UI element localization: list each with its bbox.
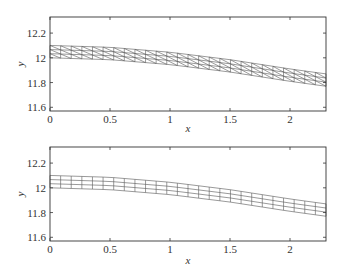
mesh-diagonal-line: [61, 54, 72, 58]
x-tick-label: 2: [287, 113, 293, 125]
mesh-diagonal-line: [92, 55, 103, 59]
x-tick-label: 1: [167, 113, 173, 125]
x-tick-label: 0.5: [103, 113, 117, 125]
x-axis-label: x: [185, 254, 191, 266]
x-tick-label: 1.5: [223, 243, 237, 255]
mesh-diagonal-line: [61, 50, 72, 54]
y-tick-label: 11.8: [27, 77, 46, 89]
x-tick-label: 1: [167, 243, 173, 255]
x-tick-label: 1.5: [223, 113, 237, 125]
x-tick-label: 0: [47, 113, 53, 125]
y-tick-label: 12.2: [27, 27, 46, 39]
y-tick-label: 11.6: [27, 101, 46, 113]
y-tick-label: 12.2: [27, 157, 46, 169]
mesh-diagonal-line: [82, 55, 93, 59]
top-plot-triangular-mesh: 00.511.5211.611.81212.2xy: [14, 17, 326, 134]
bottom-plot-quad-mesh: 00.511.5211.611.81212.2xy: [14, 147, 326, 266]
mesh-diagonal-line: [61, 46, 72, 50]
mesh-diagonal-line: [92, 51, 103, 55]
figure: 00.511.5211.611.81212.2xy 00.511.5211.61…: [0, 0, 345, 279]
mesh-diagonal-line: [50, 45, 61, 49]
x-axis-label: x: [185, 122, 191, 134]
mesh: [50, 175, 326, 216]
y-tick-label: 12: [35, 182, 46, 194]
y-tick-label: 11.6: [27, 231, 46, 243]
x-tick-label: 0.5: [103, 243, 117, 255]
mesh: [50, 45, 326, 86]
mesh-diagonal-line: [71, 54, 82, 58]
mesh-diagonal-line: [71, 46, 82, 50]
x-tick-label: 2: [287, 243, 293, 255]
mesh-diagonal-line: [82, 51, 93, 55]
y-tick-label: 11.8: [27, 207, 46, 219]
mesh-diagonal-line: [71, 50, 82, 54]
mesh-diagonal-line: [50, 50, 61, 54]
y-axis-label: y: [14, 191, 26, 197]
mesh-diagonal-line: [82, 46, 93, 50]
x-tick-label: 0: [47, 243, 53, 255]
y-tick-label: 12: [35, 52, 46, 64]
mesh-diagonal-line: [92, 47, 103, 51]
y-axis-label: y: [14, 61, 26, 67]
